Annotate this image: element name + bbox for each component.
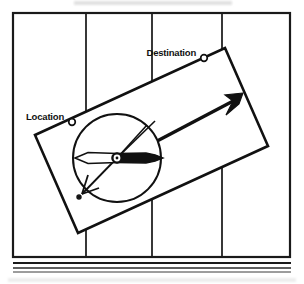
marker-destination-dot[interactable] <box>201 55 208 62</box>
marker-location-dot[interactable] <box>69 119 76 126</box>
figure-root: Compass navigation diagram A tilted rect… <box>0 0 304 284</box>
marker-location-label: Location <box>26 111 64 122</box>
marker-destination-label: Destination <box>146 47 196 58</box>
compass-needle-dark-half <box>117 153 163 163</box>
bottom-scan-artifact <box>8 278 296 282</box>
compass-rose <box>73 114 163 202</box>
compass-pivot-center <box>116 157 119 160</box>
compass-navigation-diagram: Compass navigation diagram A tilted rect… <box>0 0 304 284</box>
compass-south-arrow-tip-dot <box>77 195 81 199</box>
